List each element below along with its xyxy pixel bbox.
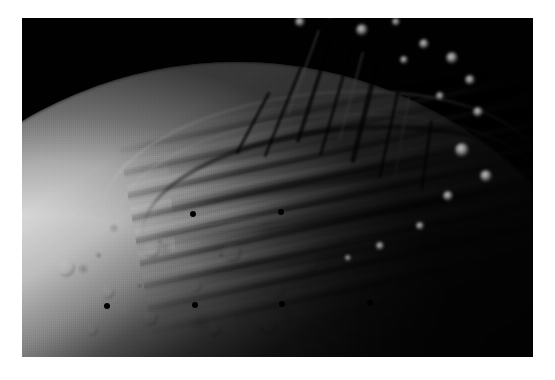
photo-frame [22, 18, 533, 357]
image-grain-overlay [22, 18, 533, 357]
photo-canvas [22, 18, 533, 357]
screenshot-root [0, 0, 555, 380]
